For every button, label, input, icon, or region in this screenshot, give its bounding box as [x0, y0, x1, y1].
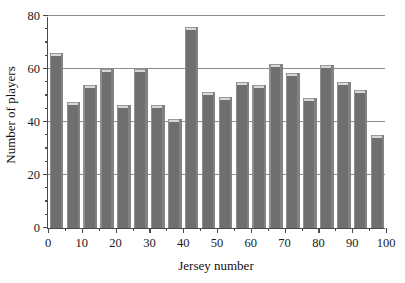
chart-page: Number of players 020406080 010203040506…	[0, 0, 405, 283]
bar-20-25	[117, 105, 131, 228]
bar-left-edge	[252, 85, 253, 228]
bar-5-10	[67, 102, 81, 228]
bar-50-55	[219, 97, 233, 228]
bar-left-edge	[202, 92, 203, 228]
y-tick-minor-10	[45, 200, 48, 201]
x-tick-40	[183, 228, 184, 233]
bar-left-edge	[100, 69, 101, 228]
bar-right-edge	[247, 82, 250, 228]
y-tick-minor-35	[45, 134, 48, 135]
bar-65-70	[269, 64, 283, 228]
y-tick-minor-25	[45, 161, 48, 162]
bar-left-edge	[354, 90, 355, 228]
y-tick-minor-55	[45, 81, 48, 82]
x-tick-minor-65	[268, 228, 269, 231]
y-tick-label-60: 60	[28, 62, 41, 77]
x-tick-minor-75	[302, 228, 303, 231]
bar-15-20	[100, 69, 114, 228]
y-tick-minor-5	[45, 214, 48, 215]
bar-80-85	[320, 65, 334, 228]
bar-right-edge	[264, 85, 267, 228]
y-tick-minor-65	[45, 55, 48, 56]
bar-left-edge	[50, 53, 51, 228]
bar-left-edge	[219, 97, 220, 228]
bar-right-edge	[162, 105, 165, 228]
bar-left-edge	[269, 64, 270, 228]
x-tick-100	[386, 228, 387, 233]
x-tick-label-30: 30	[143, 236, 156, 251]
bar-left-edge	[337, 82, 338, 228]
bar-right-edge	[196, 27, 199, 228]
x-tick-label-70: 70	[278, 236, 291, 251]
y-tick-20	[43, 174, 48, 175]
bar-25-30	[134, 69, 148, 228]
x-tick-10	[82, 228, 83, 233]
bar-left-edge	[151, 105, 152, 228]
x-tick-minor-85	[335, 228, 336, 231]
x-tick-label-100: 100	[377, 236, 396, 251]
y-axis-title-text: Number of players	[3, 66, 19, 163]
x-tick-70	[285, 228, 286, 233]
x-tick-0	[48, 228, 49, 233]
bar-left-edge	[286, 73, 287, 228]
x-tick-60	[251, 228, 252, 233]
x-tick-label-90: 90	[346, 236, 359, 251]
x-tick-50	[217, 228, 218, 233]
x-tick-90	[352, 228, 353, 233]
y-tick-minor-45	[45, 108, 48, 109]
x-tick-minor-55	[234, 228, 235, 231]
x-tick-minor-25	[133, 228, 134, 231]
bar-right-edge	[365, 90, 368, 228]
bar-40-45	[185, 27, 199, 228]
bar-right-edge	[348, 82, 351, 228]
bar-45-50	[202, 92, 216, 228]
bar-85-90	[337, 82, 351, 228]
y-tick-minor-75	[45, 28, 48, 29]
x-tick-20	[116, 228, 117, 233]
x-tick-minor-5	[65, 228, 66, 231]
x-tick-label-50: 50	[211, 236, 224, 251]
x-tick-label-40: 40	[177, 236, 190, 251]
y-tick-label-20: 20	[28, 168, 41, 183]
y-tick-minor-15	[45, 187, 48, 188]
x-axis-title: Jersey number	[47, 258, 385, 274]
bar-left-edge	[168, 119, 169, 228]
bar-55-60	[236, 82, 250, 228]
y-tick-40	[43, 121, 48, 122]
y-tick-80	[43, 15, 48, 16]
x-tick-label-60: 60	[245, 236, 258, 251]
x-tick-80	[318, 228, 319, 233]
bar-left-edge	[185, 27, 186, 228]
x-axis-title-text: Jersey number	[178, 258, 253, 273]
bar-left-edge	[83, 85, 84, 228]
bar-0-5	[50, 53, 64, 228]
bar-left-edge	[134, 69, 135, 228]
bar-35-40	[168, 119, 182, 228]
bar-right-edge	[297, 73, 300, 228]
bar-left-edge	[371, 135, 372, 228]
bar-75-80	[303, 98, 317, 228]
y-tick-minor-30	[45, 147, 48, 148]
bar-right-edge	[111, 69, 114, 228]
bar-10-15	[83, 85, 97, 228]
bar-right-edge	[382, 135, 385, 228]
y-tick-label-40: 40	[28, 115, 41, 130]
bar-60-65	[252, 85, 266, 228]
bar-left-edge	[303, 98, 304, 228]
x-tick-minor-95	[369, 228, 370, 231]
bar-right-edge	[331, 65, 334, 228]
bar-right-edge	[280, 64, 283, 228]
bar-right-edge	[314, 98, 317, 228]
y-tick-60	[43, 68, 48, 69]
x-tick-minor-45	[200, 228, 201, 231]
bar-right-edge	[145, 69, 148, 228]
x-tick-minor-35	[166, 228, 167, 231]
bar-right-edge	[61, 53, 64, 228]
y-tick-label-0: 0	[34, 221, 40, 236]
x-tick-label-20: 20	[109, 236, 122, 251]
bar-right-edge	[128, 105, 131, 228]
bar-left-edge	[67, 102, 68, 228]
bar-left-edge	[236, 82, 237, 228]
bar-70-75	[286, 73, 300, 228]
gridline-y-60	[48, 68, 385, 69]
